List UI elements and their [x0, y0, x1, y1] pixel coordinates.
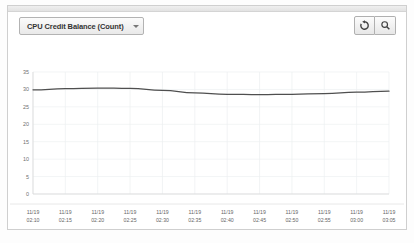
x-axis-tick-date: 11/19 — [253, 209, 266, 215]
x-axis-tick-date: 11/19 — [350, 209, 363, 215]
screenshot-root: CPU Credit Balance (Count) — [0, 0, 414, 243]
x-axis-tick-date: 11/19 — [59, 209, 72, 215]
data-series-line — [33, 88, 389, 95]
x-axis-tick-time: 02:40 — [221, 217, 234, 223]
metric-select[interactable]: CPU Credit Balance (Count) — [19, 17, 144, 35]
x-axis-tick-time: 03:00 — [350, 217, 363, 223]
x-axis-tick-time: 02:30 — [156, 217, 169, 223]
x-axis-tick-date: 11/19 — [189, 209, 202, 215]
y-axis-tick-label: 15 — [23, 139, 29, 145]
x-axis-tick-time: 02:45 — [253, 217, 266, 223]
zoom-button[interactable] — [375, 16, 396, 35]
x-axis-tick-date: 11/19 — [383, 209, 396, 215]
x-axis-tick-time: 02:25 — [124, 217, 137, 223]
magnifier-icon — [380, 20, 391, 31]
y-axis-tick-label: 0 — [26, 191, 29, 197]
x-axis-tick-date: 11/19 — [156, 209, 169, 215]
x-axis-tick-date: 11/19 — [221, 209, 234, 215]
x-axis-tick-date: 11/19 — [286, 209, 299, 215]
x-axis-tick-date: 11/19 — [27, 209, 40, 215]
x-axis-tick-time: 02:15 — [59, 217, 72, 223]
x-axis-tick-time: 02:20 — [91, 217, 104, 223]
x-axis-tick-time: 02:50 — [285, 217, 298, 223]
y-axis-tick-label: 25 — [23, 104, 29, 110]
chevron-down-icon — [133, 25, 139, 28]
x-axis-tick-time: 03:05 — [383, 217, 396, 223]
refresh-icon — [359, 20, 370, 31]
y-axis-tick-label: 10 — [23, 156, 29, 162]
y-axis-tick-label: 5 — [26, 174, 29, 180]
x-axis-tick-date: 11/19 — [318, 209, 331, 215]
refresh-button[interactable] — [354, 16, 375, 35]
metric-panel: CPU Credit Balance (Count) — [7, 5, 407, 230]
x-axis-tick-time: 02:35 — [188, 217, 201, 223]
toolbar-button-group — [354, 16, 396, 35]
y-axis-tick-label: 35 — [23, 69, 29, 75]
metric-select-label: CPU Credit Balance (Count) — [27, 22, 124, 31]
x-axis-tick-date: 11/19 — [124, 209, 137, 215]
chart-area: 0510152025303511/1902:1011/1902:1511/190… — [8, 42, 406, 230]
x-axis-tick-time: 02:55 — [318, 217, 331, 223]
x-axis-tick-date: 11/19 — [91, 209, 104, 215]
y-axis-tick-label: 20 — [23, 121, 29, 127]
metric-line-chart: 0510152025303511/1902:1011/1902:1511/190… — [8, 42, 406, 230]
panel-toolbar: CPU Credit Balance (Count) — [8, 12, 406, 42]
x-axis-tick-time: 02:10 — [27, 217, 40, 223]
y-axis-tick-label: 30 — [23, 86, 29, 92]
